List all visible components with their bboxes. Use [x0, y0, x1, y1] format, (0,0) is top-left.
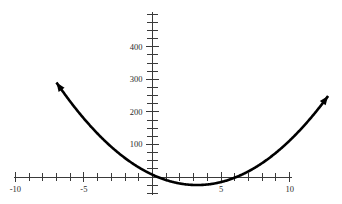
y-tick-label: 200: [130, 107, 143, 117]
plot-canvas: -10-5510 100200300400: [0, 0, 342, 204]
parabola-path: [56, 82, 328, 185]
x-tick-label: -5: [80, 184, 87, 194]
parabola-plot-figure: -10-5510 100200300400: [0, 0, 342, 204]
x-tick-label: 10: [285, 184, 294, 194]
y-tick-label: 400: [130, 42, 143, 52]
parabola-curve: [56, 82, 328, 185]
y-tick-label: 300: [130, 74, 143, 84]
curve-arrowheads: [56, 82, 328, 105]
x-tick-label: 5: [219, 184, 223, 194]
y-tick-label: 100: [130, 139, 143, 149]
y-axis-tick-labels: 100200300400: [130, 42, 143, 150]
x-tick-label: -10: [10, 184, 21, 194]
